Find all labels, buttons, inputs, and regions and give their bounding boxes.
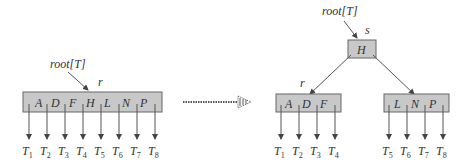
- before-key: A: [34, 96, 43, 110]
- before-key: F: [68, 96, 77, 110]
- before-key: N: [121, 96, 131, 110]
- after-right-key: N: [410, 97, 420, 111]
- subtree-label: T4: [328, 144, 339, 160]
- before-key: D: [50, 96, 60, 110]
- after-left-key: F: [319, 97, 328, 111]
- subtree-label: T3: [310, 144, 321, 160]
- subtree-label: T7: [418, 144, 429, 160]
- subtree-label: T8: [436, 144, 447, 160]
- subtree-label: T2: [40, 144, 51, 160]
- subtree-label: T4: [76, 144, 87, 160]
- before-node-label-r: r: [98, 75, 103, 89]
- after-tree: root[T] s H r A D F T1 T2 T3 T4 L N P T5…: [274, 4, 449, 160]
- right-child-pointer: [373, 55, 414, 94]
- subtree-label: T2: [292, 144, 303, 160]
- subtree-label: T7: [130, 144, 141, 160]
- subtree-label: T5: [94, 144, 105, 160]
- btree-split-diagram: root[T] r A D F H L N P T1 T2 T3 T4: [0, 0, 470, 162]
- after-right-key: L: [393, 97, 401, 111]
- subtree-label: T8: [148, 144, 159, 160]
- after-left-key: A: [284, 97, 293, 111]
- subtree-label: T6: [112, 144, 123, 160]
- subtree-label: T5: [382, 144, 393, 160]
- after-node-label-r: r: [300, 76, 305, 90]
- after-root-key: H: [356, 43, 367, 57]
- before-root-pointer-arrow: [68, 72, 88, 90]
- transform-arrow-icon: [183, 96, 251, 108]
- after-root-label: root[T]: [322, 4, 358, 18]
- after-root-pointer-arrow: [344, 21, 357, 38]
- after-node-label-s: s: [365, 23, 370, 37]
- left-child-pointer: [310, 55, 351, 94]
- subtree-label: T3: [58, 144, 69, 160]
- before-root-label: root[T]: [50, 57, 86, 71]
- before-key: L: [103, 96, 111, 110]
- subtree-label: T1: [274, 144, 285, 160]
- after-left-key: D: [301, 97, 311, 111]
- before-tree: root[T] r A D F H L N P T1 T2 T3 T4: [22, 57, 162, 160]
- after-right-key: P: [428, 97, 437, 111]
- before-key: H: [85, 96, 96, 110]
- before-subtrees: T1 T2 T3 T4 T5 T6 T7 T8: [22, 144, 159, 160]
- subtree-label: T1: [22, 144, 33, 160]
- subtree-label: T6: [400, 144, 411, 160]
- before-key: P: [139, 96, 148, 110]
